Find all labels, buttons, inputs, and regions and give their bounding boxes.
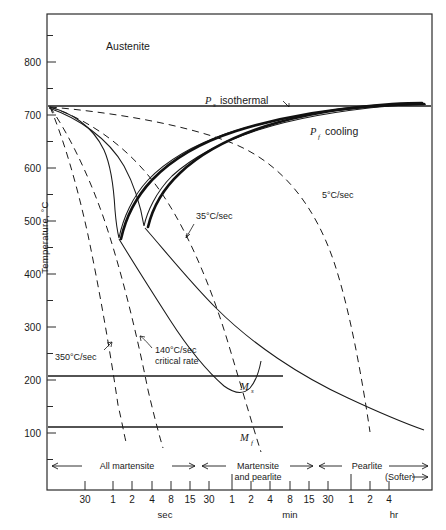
ttt-cct-diagram-figure: Temperature, °C 800 — [0, 0, 446, 530]
x-tick-9: 4 — [267, 494, 273, 505]
y-tick-100: 100 — [24, 428, 41, 439]
x-tick-13: 1 — [348, 494, 354, 505]
x-tick-7: 1 — [229, 494, 235, 505]
label-ms-symbol: M — [239, 381, 250, 392]
x-unit-min: min — [282, 509, 297, 520]
label-pf-subscript: f — [318, 133, 321, 141]
curve-rate-140 — [50, 107, 163, 448]
x-tick-10: 8 — [287, 494, 293, 505]
curve-rate-35 — [50, 107, 261, 452]
region-mart-pearl-left-arrow — [202, 463, 226, 469]
x-tick-15: 4 — [386, 494, 392, 505]
diagram-canvas: 800 700 600 500 400 300 200 100 — [0, 0, 446, 530]
region-pearlite-label: Pearlite — [352, 461, 383, 471]
x-tick-6: 30 — [203, 494, 215, 505]
x-tick-14: 2 — [367, 494, 373, 505]
region-all-martensite-label: All martensite — [100, 461, 155, 471]
x-tick-5: 15 — [184, 494, 196, 505]
y-tick-200: 200 — [24, 375, 41, 386]
label-rate-350-leader-arrow — [104, 342, 112, 350]
region-pearlite: Pearlite (Softer) — [319, 461, 428, 482]
label-rate-350: 350°C/sec — [55, 352, 97, 362]
x-tick-1: 1 — [110, 494, 116, 505]
label-mf: M f — [239, 432, 254, 447]
curve-lower-right-boundary — [145, 228, 424, 430]
y-tick-300: 300 — [24, 322, 41, 333]
label-critical-rate: critical rate — [155, 356, 199, 366]
curve-ps-isothermal — [49, 104, 424, 238]
label-rate-140-leader-arrow — [140, 336, 152, 348]
curve-pf-isothermal — [49, 104, 426, 226]
x-tick-11: 15 — [303, 494, 315, 505]
y-tick-600: 600 — [24, 163, 41, 174]
label-ps-text: isothermal — [220, 94, 268, 106]
region-pearlite-right-arrow — [389, 463, 428, 469]
plot-frame — [47, 14, 432, 490]
label-austenite: Austenite — [106, 40, 150, 52]
region-all-martensite: All martensite — [52, 461, 195, 471]
region-softer-label: (Softer) — [385, 472, 415, 482]
y-axis-title: Temperature, °C — [39, 178, 50, 298]
x-tick-0: 30 — [79, 494, 91, 505]
x-unit-hr: hr — [390, 509, 398, 520]
label-rate-140: 140°C/sec — [155, 345, 197, 355]
y-tick-800: 800 — [24, 57, 41, 68]
region-mart-pearl-label-2: and pearlite — [234, 472, 281, 482]
curve-rate-350 — [50, 107, 126, 442]
region-all-martensite-right-arrow — [172, 463, 195, 469]
label-ps-subscript: s — [213, 101, 216, 109]
x-tick-4: 8 — [168, 494, 174, 505]
region-all-martensite-left-arrow — [52, 463, 82, 469]
region-mart-pearl-label-1: Martensite — [237, 461, 279, 471]
curve-rate-5 — [50, 107, 370, 432]
x-axis-tick-labels: 30 1 2 4 8 15 30 1 2 4 8 15 30 1 2 4 — [79, 494, 392, 505]
x-tick-3: 4 — [149, 494, 155, 505]
label-pf-text: cooling — [325, 125, 358, 137]
label-rate-350-group: 350°C/sec — [55, 342, 112, 362]
x-tick-8: 2 — [248, 494, 254, 505]
x-axis-unit-labels: sec min hr — [158, 509, 399, 520]
x-tick-12: 30 — [322, 494, 334, 505]
label-rate-35-group: 35°C/sec — [186, 211, 233, 238]
label-mf-symbol: M — [239, 432, 250, 443]
label-rate-140-group: 140°C/sec critical rate — [140, 336, 199, 366]
region-mart-pearl-right-arrow — [290, 463, 313, 469]
label-rate-35: 35°C/sec — [196, 211, 233, 221]
region-martensite-and-pearlite: Martensite and pearlite — [202, 461, 313, 482]
label-pf-symbol: P — [309, 126, 317, 137]
curve-pf-cooling — [148, 103, 422, 227]
x-unit-sec: sec — [158, 509, 173, 520]
label-rate-35-leader-arrow — [186, 224, 194, 238]
x-tick-2: 2 — [129, 494, 135, 505]
label-rate-5: 5°C/sec — [322, 190, 354, 200]
label-mf-subscript: f — [251, 439, 254, 447]
label-pf-cooling: P f cooling — [309, 125, 358, 141]
region-pearlite-left-arrow — [319, 463, 342, 469]
label-ms-subscript: s — [251, 387, 254, 395]
y-tick-700: 700 — [24, 110, 41, 121]
label-ps-symbol: P — [204, 95, 212, 106]
